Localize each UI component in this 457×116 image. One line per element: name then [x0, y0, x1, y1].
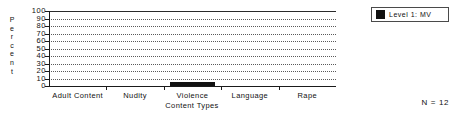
legend-label-level-1: Level 1: MV	[389, 11, 431, 19]
y-axis-title: P e r c e n t	[6, 16, 18, 76]
y-axis-title-letter: c	[10, 42, 14, 51]
y-axis-tick-label: 90	[20, 15, 46, 23]
x-axis-tick-label: Nudity	[123, 91, 147, 100]
x-axis-tick	[164, 86, 165, 90]
y-axis-title-letter: t	[11, 68, 13, 77]
x-axis-line	[49, 86, 336, 87]
gridline	[49, 79, 336, 80]
gridline	[49, 41, 336, 42]
y-axis-tick-label: 10	[20, 75, 46, 83]
y-axis-tick-label: 60	[20, 37, 46, 45]
y-axis-title-letter: r	[11, 33, 13, 42]
gridline	[49, 19, 336, 20]
bar-chart: P e r c e n t 0102030405060708090100 Adu…	[0, 0, 457, 116]
y-axis-tick-label: 50	[20, 45, 46, 53]
legend-swatch-level-1	[376, 10, 385, 19]
x-axis-tick-label: Rape	[298, 91, 318, 100]
x-axis-tick-label: Adult Content	[52, 91, 103, 100]
y-axis-line	[49, 11, 50, 87]
gridline	[49, 34, 336, 35]
plot-area	[49, 11, 336, 86]
y-axis-title-letter: n	[10, 59, 14, 68]
y-axis-tick-label: 20	[20, 67, 46, 75]
y-axis-title-letter: e	[10, 25, 14, 34]
y-axis-tick-label: 0	[20, 82, 46, 90]
x-axis-tick	[221, 86, 222, 90]
y-axis-tick-label: 40	[20, 52, 46, 60]
gridline	[49, 11, 336, 12]
x-axis-tick	[279, 86, 280, 90]
gridline	[49, 71, 336, 72]
gridline	[49, 56, 336, 57]
y-axis-title-letter: P	[10, 16, 15, 25]
y-axis-title-letter: e	[10, 50, 14, 59]
gridline	[49, 26, 336, 27]
gridline	[49, 49, 336, 50]
y-axis-tick-labels: 0102030405060708090100	[20, 8, 46, 86]
y-axis-tick-label: 100	[20, 7, 46, 15]
x-axis-tick-label: Language	[232, 91, 269, 100]
x-axis-tick	[106, 86, 107, 90]
y-axis-tick-label: 80	[20, 22, 46, 30]
x-axis-title: Content Types	[165, 101, 218, 110]
y-axis-tick-label: 70	[20, 30, 46, 38]
y-axis-tick-label: 30	[20, 60, 46, 68]
legend: Level 1: MV	[371, 7, 449, 22]
gridline	[49, 64, 336, 65]
sample-size-note: N = 12	[422, 98, 449, 108]
x-axis-tick-label: Violence	[177, 91, 209, 100]
